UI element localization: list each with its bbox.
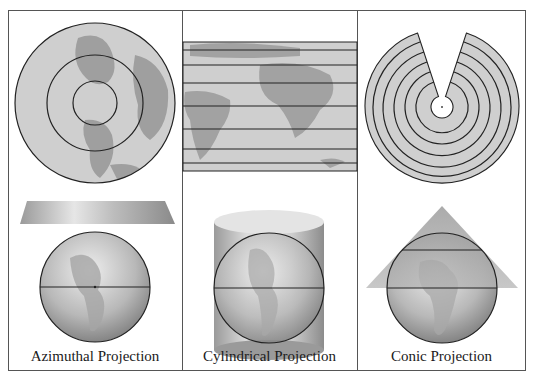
cylindrical-label: Cylindrical Projection (182, 348, 357, 365)
conic-label: Conic Projection (357, 348, 526, 365)
panel-conic: Conic Projection (357, 10, 526, 371)
azimuthal-label: Azimuthal Projection (8, 348, 182, 365)
panel-cylindrical: Cylindrical Projection (182, 10, 357, 371)
panel-azimuthal: Azimuthal Projection (8, 10, 182, 371)
